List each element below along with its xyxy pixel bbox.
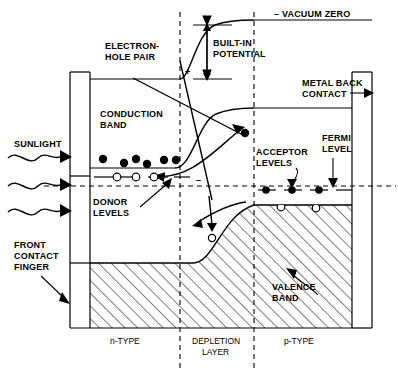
built-in-potential-label: BUILT-IN	[213, 38, 252, 48]
vacuum-zero-label: – VACUUM ZERO	[274, 9, 350, 19]
valence-hole	[289, 195, 297, 203]
donor-hole	[150, 173, 158, 181]
metal-back-contact-label: METAL BACK	[302, 78, 363, 88]
acceptor-electron	[315, 186, 323, 194]
sunlight-rays	[8, 150, 72, 217]
sunlight-ray-1	[8, 155, 62, 161]
region-label-p-type: p-TYPE	[284, 336, 314, 346]
electron	[99, 155, 107, 163]
front-contact-label: FRONT	[14, 240, 46, 250]
donor-levels-leader	[140, 183, 168, 207]
metal-back-contact-label-2: CONTACT	[302, 89, 347, 99]
acceptor-levels-label-2: LEVELS	[256, 158, 292, 168]
figure-canvas: – VACUUM ZERO CONDUCTION BAND BUILT-IN P…	[0, 0, 398, 375]
valence-hole	[330, 195, 338, 203]
electron	[172, 156, 180, 164]
valence-hole	[312, 204, 320, 212]
electron	[132, 155, 140, 163]
electron-hole-pair-generation: +	[133, 61, 243, 200]
conduction-band-label: CONDUCTION	[100, 109, 163, 119]
conduction-band-transition	[175, 108, 254, 168]
acceptor-levels	[258, 186, 352, 194]
region-label-n-type: n-TYPE	[110, 336, 140, 346]
acceptor-electron	[262, 186, 270, 194]
front-contact-leader	[41, 276, 63, 297]
hole-drift-arrowhead	[207, 223, 217, 232]
region-label-depletion-2: LAYER	[202, 347, 229, 357]
plus-charge-label: +	[185, 67, 190, 77]
region-label-depletion: DEPLETION	[192, 336, 240, 346]
valence-band-region	[90, 205, 352, 328]
fermi-level-label-2: LEVEL	[322, 144, 352, 154]
conduction-band-electrons	[99, 155, 180, 168]
front-contact-leader-arrow	[59, 292, 70, 304]
electron	[120, 159, 128, 167]
valence-hole	[260, 196, 268, 204]
valence-hole	[301, 196, 309, 204]
electron-hole-pair-label-2: HOLE PAIR	[105, 52, 155, 62]
generated-hole	[208, 234, 215, 241]
ehp-line-1	[133, 78, 243, 135]
sunlight-ray-3	[8, 209, 62, 215]
valence-band-label-2: BAND	[272, 293, 299, 303]
donor-hole	[113, 173, 121, 181]
donor-levels-label-2: LEVELS	[93, 208, 129, 218]
electron	[160, 156, 168, 164]
built-in-potential-label-2: POTENTIAL	[213, 49, 266, 59]
donor-levels-label: DONOR	[93, 197, 128, 207]
electron-hole-pair-label: ELECTRON-	[105, 41, 159, 51]
front-contact-label-2: CONTACT	[14, 251, 59, 261]
acceptor-levels-label: ACCEPTOR	[256, 147, 308, 157]
electron	[143, 160, 151, 168]
donor-hole	[132, 173, 140, 181]
minus-charge-label: –	[196, 175, 201, 185]
sunlight-label: SUNLIGHT	[14, 139, 62, 149]
hole-drift-path	[209, 196, 212, 225]
conduction-band-label-2: BAND	[100, 120, 127, 130]
acceptor-levels-leader-arrow	[287, 179, 297, 188]
front-contact-label-3: FINGER	[14, 262, 50, 272]
generated-electron	[241, 129, 249, 137]
fermi-level-label: FERMI	[322, 133, 351, 143]
